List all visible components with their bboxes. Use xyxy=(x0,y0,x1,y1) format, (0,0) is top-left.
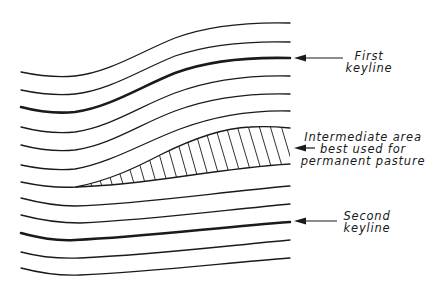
contour-line-7 xyxy=(21,127,290,188)
contour-line-1 xyxy=(21,23,290,77)
second-keyline-label-line2: keyline xyxy=(339,222,395,234)
contour-line-12 xyxy=(21,240,290,258)
second-keyline-arrow xyxy=(294,218,337,225)
first-keyline-arrow xyxy=(294,55,343,62)
intermediate-area-label: Intermediate area best used for permanen… xyxy=(298,131,428,167)
contour-line-13 xyxy=(21,258,290,275)
contour-line-4 xyxy=(21,76,290,133)
second-keyline xyxy=(21,222,290,240)
contour-line-2 xyxy=(21,42,290,95)
contour-line-9 xyxy=(21,186,290,206)
contour-line-8 xyxy=(76,164,290,187)
intermediate-area-label-line3: permanent pasture xyxy=(298,155,428,167)
contour-line-10 xyxy=(21,204,290,223)
contour-line-5 xyxy=(21,94,290,151)
first-keyline-label-line2: keyline xyxy=(343,62,395,74)
first-keyline-label: First keyline xyxy=(343,50,395,74)
first-keyline xyxy=(21,58,290,113)
second-keyline-label: Second keyline xyxy=(339,210,395,234)
